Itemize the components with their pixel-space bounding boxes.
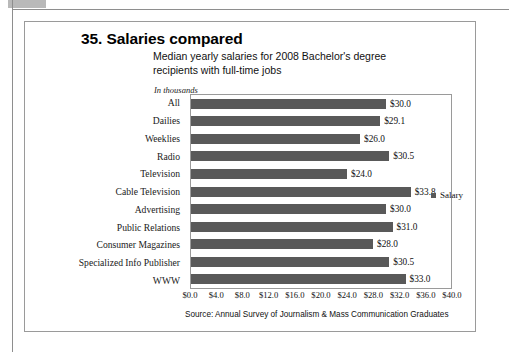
bar-row: $28.0 (191, 235, 451, 253)
x-tick-label: $40.0 (442, 290, 461, 300)
figure-title: 35. Salaries compared (81, 30, 243, 48)
x-tick-label: $28.0 (364, 290, 383, 300)
category-label: Specialized Info Publisher (33, 254, 185, 272)
bar-row: $29.1 (191, 113, 451, 131)
category-label: Cable Television (33, 183, 185, 201)
value-axis: $0.0$4.0$8.0$12.0$16.0$20.0$24.0$28.0$32… (190, 290, 452, 304)
bar-row: $30.0 (191, 200, 451, 218)
bar (191, 239, 373, 249)
bar (191, 257, 389, 267)
category-label: Public Relations (33, 218, 185, 236)
page-margin-rule-horizontal (12, 9, 509, 10)
category-label: Television (33, 165, 185, 183)
source-note: Source: Annual Survey of Journalism & Ma… (185, 310, 449, 319)
category-label: Consumer Magazines (33, 236, 185, 254)
bars-layer: $30.0$29.1$26.0$30.5$24.0$33.8$30.0$31.0… (191, 95, 451, 288)
bar-value-label: $26.0 (360, 134, 385, 144)
bar-value-label: $30.0 (386, 99, 411, 109)
category-axis: AllDailiesWeekliesRadioTelevisionCable T… (33, 94, 185, 289)
x-tick-label: $20.0 (311, 290, 330, 300)
bar (191, 134, 360, 144)
x-tick-label: $36.0 (416, 290, 435, 300)
bar (191, 274, 406, 284)
x-tick-label: $0.0 (182, 290, 197, 300)
figure-container: 35. Salaries compared Median yearly sala… (24, 21, 476, 332)
category-label: Weeklies (33, 129, 185, 147)
bar-row: $30.5 (191, 148, 451, 166)
bar-row: $31.0 (191, 218, 451, 236)
x-tick-label: $4.0 (209, 290, 224, 300)
bar (191, 169, 347, 179)
bar-row: $33.8 (191, 183, 451, 201)
figure-subtitle: Median yearly salaries for 2008 Bachelor… (153, 50, 413, 77)
bar-row: $30.5 (191, 253, 451, 271)
category-label: Radio (33, 147, 185, 165)
plot-area: $30.0$29.1$26.0$30.5$24.0$33.8$30.0$31.0… (190, 94, 452, 289)
category-label: All (33, 94, 185, 112)
bar-value-label: $30.5 (389, 257, 414, 267)
bar (191, 187, 411, 197)
x-tick-label: $8.0 (235, 290, 250, 300)
x-tick-label: $16.0 (285, 290, 304, 300)
page-corner-mark (8, 0, 46, 8)
bar-row: $26.0 (191, 130, 451, 148)
page-margin-rule-vertical (12, 0, 13, 352)
legend-swatch-salary (431, 193, 436, 198)
bar-value-label: $30.0 (386, 204, 411, 214)
bar-row: $30.0 (191, 95, 451, 113)
bar (191, 151, 389, 161)
legend-label-salary: Salary (440, 190, 463, 200)
x-tick-label: $32.0 (390, 290, 409, 300)
bar-value-label: $24.0 (347, 169, 372, 179)
chart-legend: Salary (431, 190, 463, 200)
bar-chart: AllDailiesWeekliesRadioTelevisionCable T… (33, 94, 469, 309)
bar (191, 99, 386, 109)
bar-row: $24.0 (191, 165, 451, 183)
bar-row: $33.0 (191, 270, 451, 288)
bar-value-label: $28.0 (373, 239, 398, 249)
bar (191, 116, 380, 126)
x-tick-label: $24.0 (338, 290, 357, 300)
bar-value-label: $31.0 (393, 222, 418, 232)
bar-value-label: $29.1 (380, 116, 405, 126)
bar-value-label: $33.0 (406, 274, 431, 284)
bar (191, 204, 386, 214)
category-label: Advertising (33, 200, 185, 218)
category-label: WWW (33, 271, 185, 289)
x-tick-label: $12.0 (259, 290, 278, 300)
bar-value-label: $30.5 (389, 151, 414, 161)
category-label: Dailies (33, 112, 185, 130)
bar (191, 222, 393, 232)
